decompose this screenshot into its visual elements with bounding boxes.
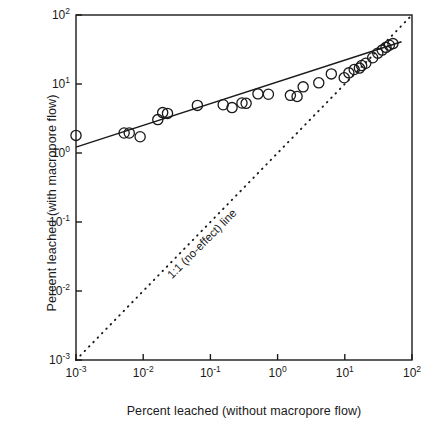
y-tick-label: 10-2 [28,284,70,298]
x-tick-label: 10-2 [133,366,154,380]
x-tick-label: 10-3 [66,366,87,380]
y-tick-label: 10-3 [28,353,70,367]
x-tick-label: 101 [336,366,354,380]
x-tick-label: 102 [403,366,421,380]
y-tick-label: 10-1 [28,215,70,229]
y-axis-label: Percent leached (with macropore flow) [45,53,59,353]
y-tick-label: 102 [28,8,70,22]
y-tick-label: 101 [28,77,70,91]
x-tick-label: 100 [269,366,287,380]
y-tick-label: 100 [28,146,70,160]
x-tick-label: 10-1 [200,366,221,380]
x-axis-label: Percent leached (without macropore flow) [76,404,412,418]
